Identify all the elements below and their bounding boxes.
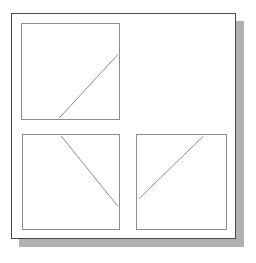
trend-line-increasing: [139, 136, 204, 199]
panel-top-left-plot: [22, 24, 119, 119]
panel-bottom-left: [22, 134, 120, 230]
trend-line-decreasing: [61, 136, 118, 206]
figure-canvas: [0, 0, 256, 263]
figure-frame: [11, 13, 236, 239]
panel-bottom-right: [136, 134, 227, 230]
panel-bottom-left-plot: [23, 135, 119, 229]
panel-top-left: [21, 23, 120, 120]
panel-bottom-right-plot: [137, 135, 226, 229]
trend-line-increasing: [59, 54, 118, 118]
